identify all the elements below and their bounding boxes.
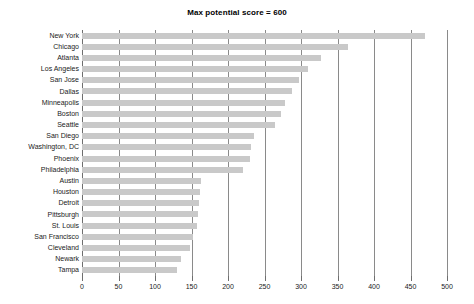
bar-row <box>82 75 447 86</box>
bar-row <box>82 119 447 130</box>
y-axis-label: Houston <box>0 188 79 196</box>
bar <box>82 111 281 117</box>
y-axis-label: Boston <box>0 110 79 118</box>
x-tick-label: 250 <box>259 283 271 291</box>
x-tick-mark <box>192 276 193 281</box>
chart-figure: Max potential score = 600 New YorkChicag… <box>0 0 474 304</box>
x-tick-mark <box>155 276 156 281</box>
y-axis-label: Washington, DC <box>0 143 79 151</box>
x-tick-label: 100 <box>149 283 161 291</box>
bar-row <box>82 142 447 153</box>
bar-row <box>82 242 447 253</box>
y-axis-category-labels: New YorkChicagoAtlantaLos AngelesSan Jos… <box>0 30 79 276</box>
bar-row <box>82 52 447 63</box>
bar-row <box>82 220 447 231</box>
chart-title: Max potential score = 600 <box>0 8 474 17</box>
x-tick-label: 0 <box>80 283 84 291</box>
y-axis-label: Austin <box>0 177 79 185</box>
bar-row <box>82 86 447 97</box>
x-tick-label: 500 <box>441 283 453 291</box>
x-tick-mark <box>447 276 448 281</box>
x-tick-mark <box>338 276 339 281</box>
bar <box>82 88 292 94</box>
x-tick-label: 50 <box>115 283 123 291</box>
bar <box>82 223 197 229</box>
x-tick-mark <box>228 276 229 281</box>
bar <box>82 189 200 195</box>
bar <box>82 44 348 50</box>
bar-row <box>82 164 447 175</box>
bar <box>82 211 198 217</box>
y-axis-label: Tampa <box>0 266 79 274</box>
y-axis-label: Atlanta <box>0 54 79 62</box>
bar-row <box>82 198 447 209</box>
x-axis: 050100150200250300350400450500 <box>0 276 474 300</box>
y-axis-label: Los Angeles <box>0 65 79 73</box>
bar-series <box>82 30 447 276</box>
bar <box>82 245 190 251</box>
x-tick-mark <box>301 276 302 281</box>
x-tick-mark <box>265 276 266 281</box>
y-axis-label: Minneapolis <box>0 99 79 107</box>
y-axis-label: Seattle <box>0 121 79 129</box>
y-axis-label: New York <box>0 32 79 40</box>
bar <box>82 267 177 273</box>
bar <box>82 33 425 39</box>
x-tick-mark <box>374 276 375 281</box>
y-axis-label: Detroit <box>0 199 79 207</box>
bar <box>82 55 321 61</box>
bar-row <box>82 254 447 265</box>
x-tick-label: 200 <box>222 283 234 291</box>
bar <box>82 100 285 106</box>
bar <box>82 156 250 162</box>
y-axis-label: Pittsburgh <box>0 211 79 219</box>
bar-row <box>82 131 447 142</box>
x-tick-label: 150 <box>186 283 198 291</box>
y-axis-label: St. Louis <box>0 222 79 230</box>
bar <box>82 178 201 184</box>
bar-row <box>82 175 447 186</box>
x-tick-label: 400 <box>368 283 380 291</box>
bar-row <box>82 231 447 242</box>
y-axis-label: Newark <box>0 255 79 263</box>
bar-row <box>82 97 447 108</box>
bar <box>82 66 308 72</box>
bar <box>82 200 199 206</box>
y-axis-label: Phoenix <box>0 155 79 163</box>
bar-row <box>82 64 447 75</box>
bar-row <box>82 41 447 52</box>
x-tick-label: 350 <box>332 283 344 291</box>
y-axis-label: San Jose <box>0 76 79 84</box>
x-tick-mark <box>119 276 120 281</box>
bar <box>82 133 254 139</box>
x-tick-label: 300 <box>295 283 307 291</box>
x-tick-mark <box>82 276 83 281</box>
gridline <box>447 30 448 276</box>
bar-row <box>82 209 447 220</box>
bar-row <box>82 108 447 119</box>
y-axis-label: Cleveland <box>0 244 79 252</box>
bar-row <box>82 153 447 164</box>
y-axis-label: Philadelphia <box>0 166 79 174</box>
bar <box>82 122 275 128</box>
x-tick-mark <box>411 276 412 281</box>
y-axis-label: San Francisco <box>0 233 79 241</box>
bar-row <box>82 265 447 276</box>
bar <box>82 167 243 173</box>
bar <box>82 256 181 262</box>
bar-row <box>82 187 447 198</box>
bar-row <box>82 30 447 41</box>
x-tick-label: 450 <box>405 283 417 291</box>
y-axis-label: Chicago <box>0 43 79 51</box>
bar <box>82 234 193 240</box>
bar <box>82 144 251 150</box>
y-axis-label: San Diego <box>0 132 79 140</box>
y-axis-label: Dallas <box>0 88 79 96</box>
plot-area <box>82 30 447 276</box>
bar <box>82 77 299 83</box>
